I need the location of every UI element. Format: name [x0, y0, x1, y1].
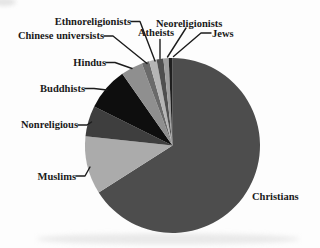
- label-chinese-universists: Chinese universists: [18, 31, 104, 42]
- leader-line-muslims: [76, 167, 90, 176]
- label-hindus: Hindus: [73, 58, 106, 69]
- label-muslims: Muslims: [37, 172, 76, 183]
- corner-smudge: [0, 0, 16, 6]
- label-christians: Christians: [252, 192, 299, 203]
- pie-shadow: [36, 234, 300, 245]
- leader-line-chinese-universists: [104, 36, 147, 64]
- label-jews: Jews: [212, 29, 234, 40]
- leader-line-jews: [174, 33, 212, 57]
- label-buddhists: Buddhists: [40, 84, 85, 95]
- label-ethnoreligionists: Ethnoreligionists: [55, 17, 131, 28]
- leader-line-hindus: [106, 63, 132, 69]
- label-atheists: Atheists: [138, 28, 174, 39]
- pie-slices: [85, 58, 260, 233]
- label-nonreligious: Nonreligious: [21, 120, 78, 131]
- leader-line-buddhists: [85, 89, 107, 91]
- world-religions-pie-figure: Ethnoreligionists Neoreligionists Atheis…: [0, 0, 320, 248]
